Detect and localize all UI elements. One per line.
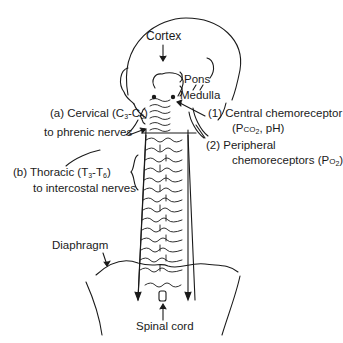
respiratory-control-diagram: Cortex Pons Medulla (a) Cervical (C3-C5)… bbox=[0, 0, 343, 343]
brainstem bbox=[153, 73, 183, 96]
phrenic-arrow bbox=[138, 130, 146, 298]
label-peripheral-chemoreceptors: (2) Peripheral bbox=[206, 139, 276, 152]
label-intercostal: to intercostal nerves bbox=[33, 182, 136, 195]
label-peripheral-chemoreceptors-stimuli: chemoreceptors (PO2) bbox=[232, 154, 343, 168]
thoracic-leader bbox=[66, 150, 100, 166]
label-diaphragm: Diaphragm bbox=[52, 239, 108, 252]
spine-right-edge bbox=[188, 135, 195, 300]
label-cortex: Cortex bbox=[146, 30, 181, 43]
label-phrenic: to phrenic nerves bbox=[44, 126, 132, 139]
torso-left bbox=[86, 282, 102, 335]
label-pons: Pons bbox=[184, 73, 210, 86]
label-thoracic: (b) Thoracic (T3-T6) bbox=[13, 166, 111, 179]
torso-right bbox=[222, 276, 240, 335]
label-central-chemoreceptor-stimuli: (PCO2, pH) bbox=[232, 122, 284, 136]
head-outline bbox=[126, 18, 240, 100]
label-central-chemoreceptor: (1) Central chemoreceptor bbox=[208, 107, 342, 120]
spinal-cord-section bbox=[159, 291, 166, 301]
central-chemo-arrow bbox=[178, 102, 205, 116]
label-spinal-cord: Spinal cord bbox=[136, 320, 194, 333]
label-medulla: Medulla bbox=[180, 89, 220, 102]
label-cervical: (a) Cervical (C3-C5) bbox=[50, 107, 148, 120]
diaphragm-line bbox=[96, 261, 238, 275]
vertebrae bbox=[140, 99, 182, 288]
